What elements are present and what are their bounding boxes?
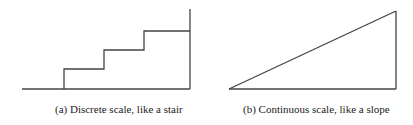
slope-hypotenuse [229, 11, 396, 89]
stair-steps [64, 31, 190, 89]
caption-continuous-scale: (b) Continuous scale, like a slope [243, 104, 390, 115]
slope-diagram [229, 11, 396, 89]
caption-discrete-scale: (a) Discrete scale, like a stair [55, 104, 183, 115]
stair-diagram [22, 9, 190, 89]
